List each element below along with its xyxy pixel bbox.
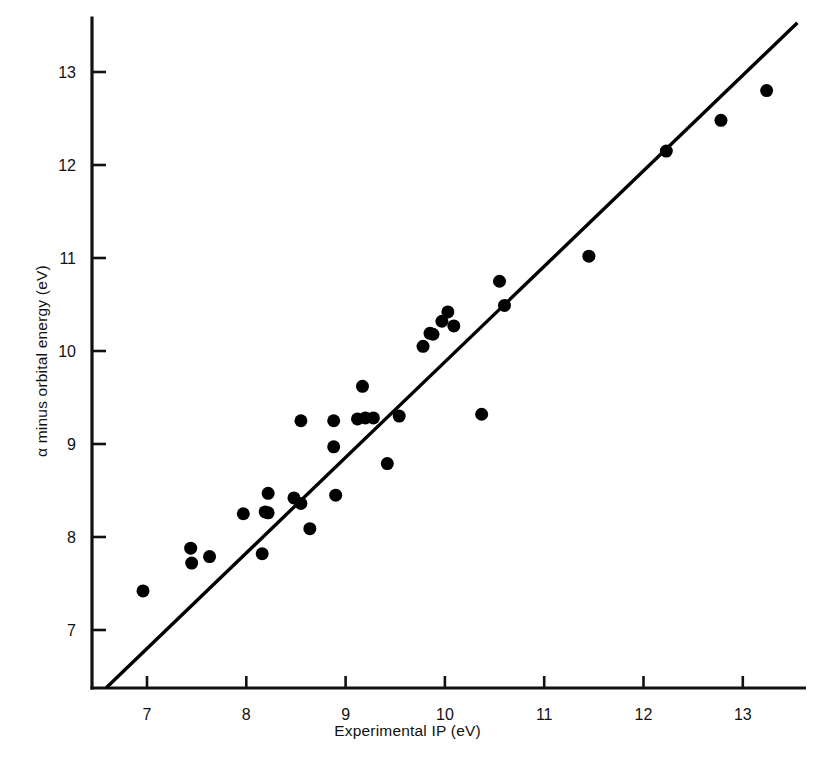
chart-figure: 7891011121378910111213 Experimental IP (… — [0, 0, 815, 766]
scatter-point — [327, 414, 340, 427]
y-tick-label: 12 — [58, 157, 76, 174]
y-tick-label: 11 — [59, 250, 76, 267]
x-tick-label: 10 — [436, 706, 454, 723]
x-tick-label: 11 — [536, 706, 553, 723]
y-tick-label: 9 — [67, 436, 76, 453]
scatter-point — [367, 411, 380, 424]
scatter-point — [393, 410, 406, 423]
scatter-plot-canvas: 7891011121378910111213 — [0, 0, 815, 766]
scatter-point — [475, 408, 488, 421]
reference-line — [106, 23, 797, 688]
y-axis-label: α minus orbital energy (eV) — [33, 151, 51, 571]
scatter-point — [493, 275, 506, 288]
y-tick-label: 10 — [58, 343, 76, 360]
data-points — [137, 84, 774, 597]
scatter-point — [660, 145, 673, 158]
scatter-point — [426, 328, 439, 341]
scatter-point — [203, 550, 216, 563]
scatter-point — [294, 497, 307, 510]
x-tick-label: 13 — [734, 706, 752, 723]
identity-line — [106, 23, 797, 688]
x-tick-label: 12 — [635, 706, 653, 723]
scatter-point — [329, 489, 342, 502]
scatter-point — [256, 547, 269, 560]
scatter-point — [381, 457, 394, 470]
scatter-point — [185, 557, 198, 570]
scatter-point — [294, 414, 307, 427]
scatter-point — [237, 507, 250, 520]
tick-labels: 7891011121378910111213 — [58, 64, 752, 723]
x-axis-label: Experimental IP (eV) — [0, 722, 815, 740]
scatter-point — [327, 440, 340, 453]
scatter-point — [303, 522, 316, 535]
x-tick-label: 9 — [341, 706, 350, 723]
scatter-point — [714, 114, 727, 127]
scatter-point — [582, 250, 595, 263]
scatter-point — [356, 380, 369, 393]
y-tick-label: 13 — [58, 64, 76, 81]
scatter-point — [184, 542, 197, 555]
scatter-point — [498, 299, 511, 312]
scatter-point — [441, 305, 454, 318]
scatter-point — [447, 319, 460, 332]
x-tick-label: 7 — [143, 706, 152, 723]
x-tick-label: 8 — [242, 706, 251, 723]
scatter-point — [262, 506, 275, 519]
y-tick-label: 8 — [67, 529, 76, 546]
scatter-point — [262, 487, 275, 500]
scatter-point — [137, 584, 150, 597]
scatter-point — [760, 84, 773, 97]
scatter-point — [417, 340, 430, 353]
y-tick-label: 7 — [67, 622, 76, 639]
